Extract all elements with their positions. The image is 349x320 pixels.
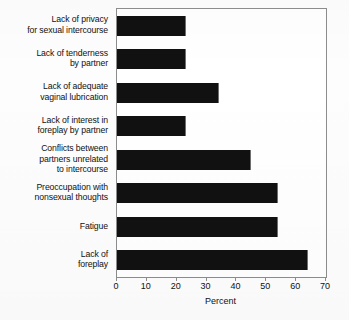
category-label: Conflicts between partners unrelated to … bbox=[0, 142, 112, 176]
x-tick-label: 70 bbox=[320, 281, 330, 291]
category-label-line: to intercourse bbox=[57, 164, 108, 174]
category-label: Preoccupation with nonsexual thoughts bbox=[0, 176, 112, 210]
category-label: Lack of privacy for sexual intercourse bbox=[0, 8, 112, 42]
category-label-line: foreplay by partner bbox=[37, 125, 108, 135]
x-tick-label: 60 bbox=[290, 281, 300, 291]
x-axis-tick-labels: 010203040506070 bbox=[0, 281, 349, 295]
category-label-line: Preoccupation with bbox=[36, 182, 108, 192]
bar-row bbox=[117, 177, 326, 211]
category-label: Lack of tenderness by partner bbox=[0, 42, 112, 76]
bar-row bbox=[117, 143, 326, 177]
bar-chart: Lack of privacy for sexual intercourse L… bbox=[0, 0, 349, 320]
x-tick-label: 40 bbox=[230, 281, 240, 291]
category-label: Fatigue bbox=[0, 209, 112, 243]
category-label-line: Lack of bbox=[81, 249, 108, 259]
category-label: Lack of foreplay bbox=[0, 243, 112, 277]
category-axis-labels: Lack of privacy for sexual intercourse L… bbox=[0, 8, 112, 276]
bar-row bbox=[117, 110, 326, 144]
x-tick-label: 10 bbox=[141, 281, 151, 291]
bar-series bbox=[117, 9, 326, 277]
bar bbox=[117, 16, 186, 36]
category-label-line: nonsexual thoughts bbox=[34, 192, 108, 202]
x-tick-label: 0 bbox=[113, 281, 118, 291]
category-label-line: foreplay bbox=[78, 259, 108, 269]
bar bbox=[117, 217, 278, 237]
bar bbox=[117, 250, 308, 270]
bar-row bbox=[117, 76, 326, 110]
x-tick-label: 30 bbox=[201, 281, 211, 291]
category-label: Lack of adequate vaginal lubrication bbox=[0, 75, 112, 109]
category-label-line: by partner bbox=[70, 58, 108, 68]
x-tick-label: 50 bbox=[260, 281, 270, 291]
category-label-line: Lack of privacy bbox=[52, 14, 108, 24]
category-label-line: Lack of tenderness bbox=[36, 48, 108, 58]
bar-row bbox=[117, 43, 326, 77]
bar bbox=[117, 150, 251, 170]
bar-row bbox=[117, 244, 326, 278]
category-label-line: partners unrelated bbox=[39, 154, 108, 164]
bar-row bbox=[117, 9, 326, 43]
category-label-line: Lack of interest in bbox=[42, 115, 108, 125]
category-label: Lack of interest in foreplay by partner bbox=[0, 109, 112, 143]
category-label-line: vaginal lubrication bbox=[40, 92, 108, 102]
bar bbox=[117, 183, 278, 203]
category-label-line: Lack of adequate bbox=[43, 81, 108, 91]
x-axis-title: Percent bbox=[116, 296, 325, 306]
category-label-line: Fatigue bbox=[80, 221, 108, 231]
category-label-line: Conflicts between bbox=[41, 143, 108, 153]
bar bbox=[117, 49, 186, 69]
bar bbox=[117, 83, 219, 103]
x-tick-label: 20 bbox=[171, 281, 181, 291]
category-label-line: for sexual intercourse bbox=[27, 25, 108, 35]
bar bbox=[117, 116, 186, 136]
plot-area bbox=[116, 8, 327, 278]
bar-row bbox=[117, 210, 326, 244]
